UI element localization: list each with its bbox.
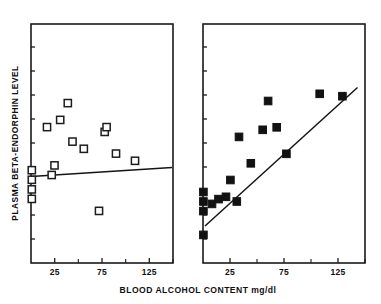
data-point [200,198,208,206]
data-point [339,92,347,100]
data-point [283,150,291,158]
panel-left: 25 75 125 [28,24,173,277]
panel-right-frame [203,24,365,263]
data-point [273,124,281,132]
data-point [51,162,58,169]
panel-right-xtick-label-2: 125 [330,267,345,277]
data-point [200,207,208,215]
data-point [215,195,223,203]
data-point [259,126,267,134]
data-point [28,186,35,193]
data-point [233,198,241,206]
data-point [57,116,64,123]
data-point [28,195,35,202]
data-point [235,133,243,141]
data-point [222,193,230,201]
panel-left-xtick-label-2: 125 [142,267,157,277]
data-point [28,176,35,183]
data-point [28,167,35,174]
data-point [247,160,255,168]
data-point [316,90,324,98]
data-point [264,97,272,105]
data-point [69,138,76,145]
data-point [200,231,208,239]
panel-right: 25 75 125 [200,24,365,277]
data-point [48,171,55,178]
panel-left-data-points [28,100,138,215]
data-point [200,188,208,196]
x-axis-label: BLOOD ALCOHOL CONTENT mg/dl [120,285,277,295]
panel-right-regression-line [205,88,358,227]
data-point [227,176,235,184]
data-point [112,150,119,157]
scatter-plot-figure: 25 75 125 [0,0,381,304]
panel-left-xtick-label-0: 25 [50,267,60,277]
data-point [64,100,71,107]
panel-right-xtick-label-1: 75 [279,267,289,277]
data-point [103,124,110,131]
panel-right-xtick-label-0: 25 [225,267,235,277]
data-point [43,124,50,131]
panel-left-frame [31,24,173,263]
data-point [80,145,87,152]
panel-left-xtick-label-1: 75 [97,267,107,277]
y-axis-label: PLASMA BETA-ENDORPHIN LEVEL [10,65,20,220]
data-point [131,157,138,164]
data-point [95,207,102,214]
